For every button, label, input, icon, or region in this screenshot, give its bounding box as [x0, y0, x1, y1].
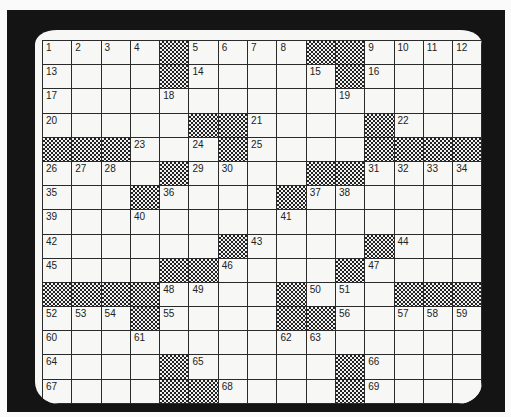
- answer-cell[interactable]: [307, 235, 336, 259]
- answer-cell[interactable]: [453, 186, 482, 210]
- answer-cell[interactable]: 49: [189, 283, 218, 307]
- answer-cell[interactable]: 48: [160, 283, 189, 307]
- answer-cell[interactable]: [395, 259, 424, 283]
- answer-cell[interactable]: [219, 307, 248, 331]
- answer-cell[interactable]: [307, 114, 336, 138]
- answer-cell[interactable]: [453, 331, 482, 355]
- answer-cell[interactable]: [131, 355, 160, 379]
- answer-cell[interactable]: [248, 259, 277, 283]
- answer-cell[interactable]: [307, 355, 336, 379]
- answer-cell[interactable]: 2: [72, 41, 101, 65]
- answer-cell[interactable]: [395, 186, 424, 210]
- answer-cell[interactable]: 19: [336, 89, 365, 113]
- answer-cell[interactable]: [365, 186, 394, 210]
- answer-cell[interactable]: [72, 210, 101, 234]
- answer-cell[interactable]: [72, 355, 101, 379]
- answer-cell[interactable]: [102, 210, 131, 234]
- answer-cell[interactable]: [277, 114, 306, 138]
- answer-cell[interactable]: [248, 186, 277, 210]
- answer-cell[interactable]: 52: [43, 307, 72, 331]
- answer-cell[interactable]: [365, 89, 394, 113]
- answer-cell[interactable]: 1: [43, 41, 72, 65]
- answer-cell[interactable]: [424, 65, 453, 89]
- answer-cell[interactable]: [72, 331, 101, 355]
- answer-cell[interactable]: 17: [43, 89, 72, 113]
- answer-cell[interactable]: [131, 235, 160, 259]
- answer-cell[interactable]: [248, 162, 277, 186]
- answer-cell[interactable]: [453, 210, 482, 234]
- answer-cell[interactable]: 24: [189, 138, 218, 162]
- answer-cell[interactable]: [102, 380, 131, 404]
- answer-cell[interactable]: [102, 331, 131, 355]
- answer-cell[interactable]: [219, 355, 248, 379]
- answer-cell[interactable]: 59: [453, 307, 482, 331]
- answer-cell[interactable]: [395, 210, 424, 234]
- answer-cell[interactable]: [189, 186, 218, 210]
- answer-cell[interactable]: [307, 89, 336, 113]
- answer-cell[interactable]: [453, 65, 482, 89]
- answer-cell[interactable]: 64: [43, 355, 72, 379]
- answer-cell[interactable]: 38: [336, 186, 365, 210]
- answer-cell[interactable]: 5: [189, 41, 218, 65]
- answer-cell[interactable]: 69: [365, 380, 394, 404]
- answer-cell[interactable]: [336, 210, 365, 234]
- answer-cell[interactable]: 62: [277, 331, 306, 355]
- answer-cell[interactable]: [453, 89, 482, 113]
- answer-cell[interactable]: 22: [395, 114, 424, 138]
- answer-cell[interactable]: 34: [453, 162, 482, 186]
- answer-cell[interactable]: [72, 259, 101, 283]
- answer-cell[interactable]: 4: [131, 41, 160, 65]
- answer-cell[interactable]: 31: [365, 162, 394, 186]
- answer-cell[interactable]: [307, 210, 336, 234]
- answer-cell[interactable]: [277, 89, 306, 113]
- answer-cell[interactable]: [365, 210, 394, 234]
- answer-cell[interactable]: [102, 355, 131, 379]
- answer-cell[interactable]: 32: [395, 162, 424, 186]
- answer-cell[interactable]: [160, 138, 189, 162]
- answer-cell[interactable]: [277, 138, 306, 162]
- answer-cell[interactable]: 10: [395, 41, 424, 65]
- answer-cell[interactable]: 45: [43, 259, 72, 283]
- answer-cell[interactable]: [424, 259, 453, 283]
- answer-cell[interactable]: [453, 235, 482, 259]
- answer-cell[interactable]: [453, 114, 482, 138]
- answer-cell[interactable]: 13: [43, 65, 72, 89]
- answer-cell[interactable]: 61: [131, 331, 160, 355]
- answer-cell[interactable]: [277, 65, 306, 89]
- answer-cell[interactable]: 60: [43, 331, 72, 355]
- answer-cell[interactable]: [219, 65, 248, 89]
- answer-cell[interactable]: 6: [219, 41, 248, 65]
- answer-cell[interactable]: [72, 89, 101, 113]
- answer-cell[interactable]: 66: [365, 355, 394, 379]
- answer-cell[interactable]: [365, 331, 394, 355]
- answer-cell[interactable]: 25: [248, 138, 277, 162]
- answer-cell[interactable]: [424, 380, 453, 404]
- answer-cell[interactable]: [248, 331, 277, 355]
- answer-cell[interactable]: 35: [43, 186, 72, 210]
- answer-cell[interactable]: 28: [102, 162, 131, 186]
- answer-cell[interactable]: 67: [43, 380, 72, 404]
- answer-cell[interactable]: [219, 89, 248, 113]
- answer-cell[interactable]: [336, 235, 365, 259]
- answer-cell[interactable]: [248, 355, 277, 379]
- answer-cell[interactable]: [248, 89, 277, 113]
- answer-cell[interactable]: 55: [160, 307, 189, 331]
- answer-cell[interactable]: [424, 114, 453, 138]
- answer-cell[interactable]: [72, 235, 101, 259]
- answer-cell[interactable]: 36: [160, 186, 189, 210]
- answer-cell[interactable]: [365, 307, 394, 331]
- answer-cell[interactable]: [336, 331, 365, 355]
- answer-cell[interactable]: [277, 380, 306, 404]
- answer-cell[interactable]: [160, 331, 189, 355]
- answer-cell[interactable]: 53: [72, 307, 101, 331]
- answer-cell[interactable]: [395, 331, 424, 355]
- answer-cell[interactable]: [336, 138, 365, 162]
- answer-cell[interactable]: 41: [277, 210, 306, 234]
- answer-cell[interactable]: [189, 89, 218, 113]
- answer-cell[interactable]: [365, 283, 394, 307]
- answer-cell[interactable]: [72, 186, 101, 210]
- answer-cell[interactable]: [336, 114, 365, 138]
- answer-cell[interactable]: [219, 283, 248, 307]
- answer-cell[interactable]: [248, 283, 277, 307]
- answer-cell[interactable]: 26: [43, 162, 72, 186]
